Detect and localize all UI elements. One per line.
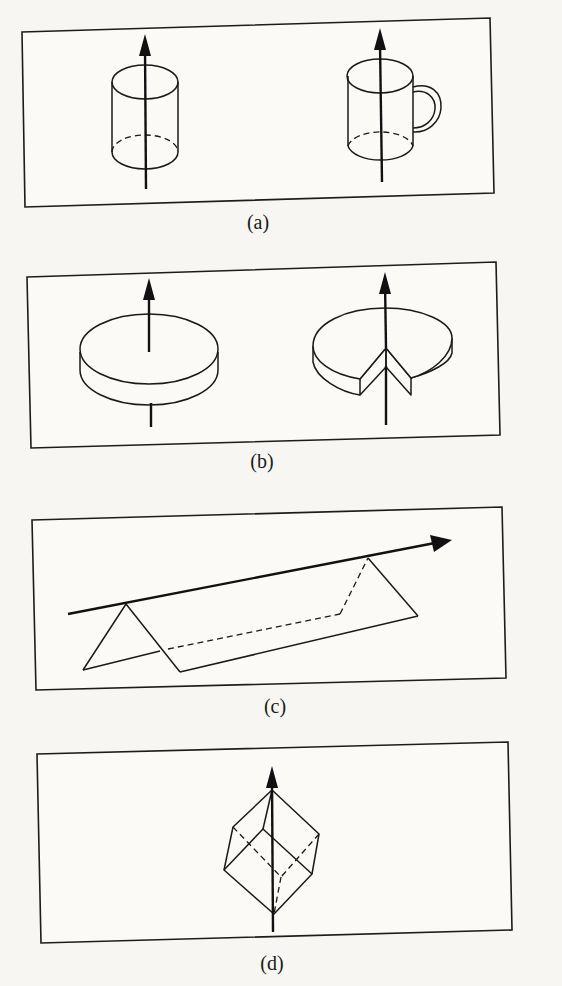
panel-c-frame	[32, 507, 506, 690]
panel-d-label: (d)	[260, 952, 283, 975]
panel-b	[27, 262, 500, 448]
panel-a-frame	[22, 18, 494, 207]
panel-b-label: (b)	[250, 450, 273, 473]
panel-c-label: (c)	[264, 695, 286, 718]
panel-d	[37, 742, 512, 943]
panel-a	[22, 18, 494, 207]
panel-c	[32, 507, 506, 690]
panel-a-label: (a)	[247, 211, 269, 234]
symmetry-axes-figure	[0, 0, 562, 986]
